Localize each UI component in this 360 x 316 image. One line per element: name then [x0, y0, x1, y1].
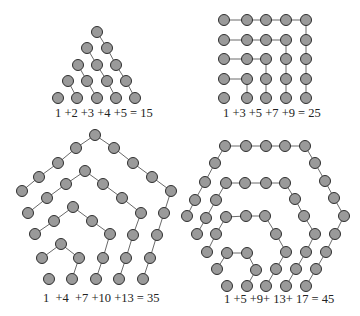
pentagonal-sum-label: 1 +4 +7 +10 +13 = 35	[43, 291, 160, 305]
dot	[242, 248, 253, 259]
dot	[105, 229, 116, 240]
dot	[330, 229, 341, 240]
dot	[53, 93, 64, 104]
dot	[42, 193, 53, 204]
dot	[222, 281, 233, 292]
dot	[271, 229, 282, 240]
dot	[109, 143, 120, 154]
dot	[212, 264, 223, 275]
square-sum-label: 1 +3 +5 +7 +9 = 25	[223, 106, 321, 120]
dot	[300, 141, 311, 152]
dot	[261, 74, 272, 85]
figurate-numbers-diagram: 1 +2 +3 +4 +5 = 15 1 +3 +5 +7 +9 = 25 1 …	[0, 0, 360, 316]
dot	[219, 54, 230, 65]
dot	[159, 208, 170, 219]
dot	[136, 208, 147, 219]
dot	[242, 93, 253, 104]
dot	[222, 248, 233, 259]
dot	[281, 15, 292, 26]
dot	[67, 274, 78, 285]
dot	[92, 60, 103, 71]
hexagonal-sum-label: 1 +5 +9+ 13+ 17 = 45	[224, 292, 334, 306]
dot	[221, 178, 232, 189]
hexagonal-figure: 1 +5 +9+ 13+ 17 = 45	[182, 141, 350, 307]
dot	[242, 15, 253, 26]
dot	[92, 27, 103, 38]
dot	[23, 208, 34, 219]
dot	[219, 35, 230, 46]
pentagonal-dots	[17, 130, 177, 285]
dot	[301, 281, 312, 292]
dot	[17, 186, 28, 197]
dot	[301, 35, 312, 46]
dot	[261, 35, 272, 46]
connector-line	[224, 40, 286, 98]
dot	[211, 195, 222, 206]
dot	[121, 253, 132, 264]
dot	[53, 158, 64, 169]
dot	[261, 15, 272, 26]
dot	[37, 253, 48, 264]
dot	[329, 193, 340, 204]
connector-line	[87, 48, 116, 98]
dot	[261, 281, 272, 292]
dot	[261, 54, 272, 65]
dot	[82, 43, 93, 54]
dot	[339, 211, 350, 222]
dot	[301, 54, 312, 65]
dot	[202, 247, 213, 258]
dot	[301, 15, 312, 26]
dot	[80, 166, 91, 177]
dot	[147, 172, 158, 183]
dot	[219, 74, 230, 85]
dot	[82, 76, 93, 87]
connector-line	[35, 207, 110, 279]
dot	[90, 130, 101, 141]
dot	[102, 43, 113, 54]
square-figure: 1 +3 +5 +7 +9 = 25	[219, 15, 321, 121]
dot	[111, 60, 122, 71]
dot	[281, 281, 292, 292]
dot	[281, 93, 292, 104]
dot	[261, 93, 272, 104]
dot	[210, 158, 221, 169]
triangular-dots	[53, 27, 141, 104]
dot	[130, 93, 141, 104]
dot	[321, 247, 332, 258]
dot	[219, 93, 230, 104]
dot	[299, 211, 310, 222]
hexagonal-dots	[182, 141, 350, 292]
dot	[49, 216, 60, 227]
dot	[138, 274, 149, 285]
dot	[72, 93, 83, 104]
dot	[290, 194, 301, 205]
dot	[56, 239, 67, 250]
dot	[117, 193, 128, 204]
dot	[152, 230, 163, 241]
dot	[221, 212, 232, 223]
dot	[190, 195, 201, 206]
dot	[301, 93, 312, 104]
dot	[61, 179, 72, 190]
dot	[211, 229, 222, 240]
dot	[310, 158, 321, 169]
dot	[280, 141, 291, 152]
dot	[320, 176, 331, 187]
dot	[301, 74, 312, 85]
dot	[34, 172, 45, 183]
dot	[242, 281, 253, 292]
dot	[261, 178, 272, 189]
dot	[261, 141, 272, 152]
dot	[128, 158, 139, 169]
dot	[166, 186, 177, 197]
dot	[281, 35, 292, 46]
dot	[91, 274, 102, 285]
triangular-figure: 1 +2 +3 +4 +5 = 15	[53, 27, 153, 121]
dot	[145, 253, 156, 264]
dot	[310, 229, 321, 240]
dot	[63, 76, 74, 87]
dot	[200, 177, 211, 188]
dot	[73, 60, 84, 71]
dot	[291, 264, 302, 275]
dot	[74, 253, 85, 264]
